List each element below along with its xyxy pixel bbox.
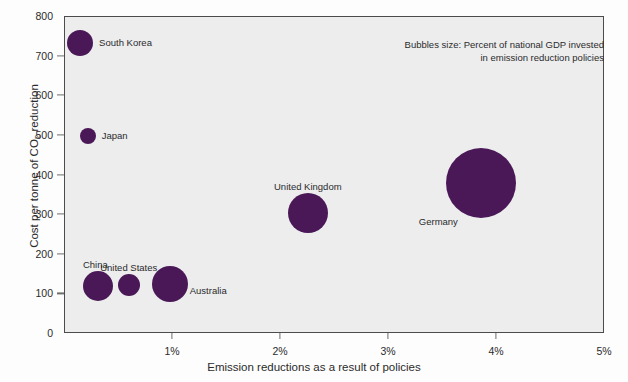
- x-axis: 1%2%3%4%5%: [0, 333, 628, 363]
- x-tick-label: 3%: [380, 345, 395, 357]
- bubble-label-united-states: United States: [100, 262, 157, 273]
- bubble-label-australia: Australia: [190, 285, 227, 296]
- bubble-united-states[interactable]: [118, 274, 140, 296]
- y-tick-mark: [57, 214, 64, 215]
- annotation-line-1: Bubbles size: Percent of national GDP in…: [344, 39, 604, 52]
- x-axis-title: Emission reductions as a result of polic…: [0, 361, 628, 373]
- bubble-germany[interactable]: [446, 148, 516, 218]
- y-axis-title-prefix: Cost per tonne of CO: [28, 139, 40, 248]
- x-tick-label: 2%: [272, 345, 287, 357]
- bubble-china[interactable]: [83, 271, 113, 301]
- y-axis-title-subscript: 2: [33, 135, 42, 139]
- bubble-label-japan: Japan: [102, 130, 128, 141]
- x-tick-label: 1%: [164, 345, 179, 357]
- bubble-chart: 0100200300400500600700800 Cost per tonne…: [0, 0, 628, 382]
- y-axis-title-suffix: reduction: [28, 84, 40, 135]
- y-axis-title: Cost per tonne of CO2 reduction: [28, 36, 40, 296]
- x-tick-mark: [279, 333, 280, 339]
- bubble-japan[interactable]: [80, 128, 96, 144]
- annotation-line-2: in emission reduction policies: [344, 52, 604, 65]
- x-tick-mark: [171, 333, 172, 339]
- y-tick-mark: [57, 253, 64, 254]
- y-tick-mark: [57, 95, 64, 96]
- x-tick-mark: [495, 333, 496, 339]
- x-tick-label: 5%: [596, 345, 611, 357]
- x-tick-label: 4%: [488, 345, 503, 357]
- bubble-label-united-kingdom: United Kingdom: [274, 181, 342, 192]
- y-tick-mark: [57, 134, 64, 135]
- x-tick-mark: [387, 333, 388, 339]
- y-tick-label: 800: [35, 10, 53, 22]
- bubble-united-kingdom[interactable]: [288, 193, 328, 233]
- y-tick-mark: [57, 55, 64, 56]
- bubble-australia[interactable]: [152, 266, 188, 302]
- y-tick-mark: [57, 174, 64, 175]
- bubble-size-annotation: Bubbles size: Percent of national GDP in…: [344, 39, 604, 64]
- bubble-layer: South KoreaJapanChinaUnited StatesAustra…: [65, 17, 603, 332]
- bubble-label-germany: Germany: [419, 216, 458, 227]
- bubble-south-korea[interactable]: [67, 30, 93, 56]
- bubble-label-south-korea: South Korea: [99, 37, 152, 48]
- y-tick-mark: [57, 293, 64, 294]
